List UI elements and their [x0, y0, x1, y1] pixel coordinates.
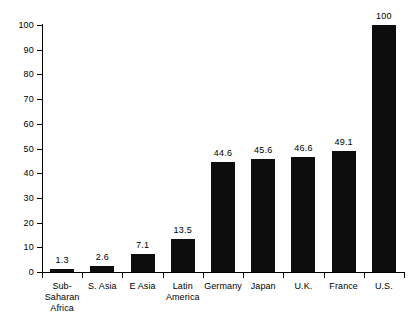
y-axis-tick-label: 10: [0, 243, 34, 252]
y-axis-tick-label: 40: [0, 169, 34, 178]
bar-value-label: 45.6: [243, 146, 283, 155]
y-axis-tick: [37, 223, 43, 224]
bar: [131, 254, 155, 272]
y-axis-tick-label: 20: [0, 219, 34, 228]
y-axis-tick: [37, 149, 43, 150]
y-axis-tick: [37, 124, 43, 125]
bar: [211, 162, 235, 272]
x-axis-line: [42, 272, 405, 273]
y-axis-tick: [37, 99, 43, 100]
y-axis-tick: [37, 74, 43, 75]
bar: [50, 269, 74, 272]
y-axis-tick-label: 90: [0, 46, 34, 55]
bar: [90, 266, 114, 272]
x-axis-tick: [203, 273, 204, 278]
bar-chart: 0102030405060708090100 1.32.67.113.544.6…: [0, 0, 416, 328]
y-axis-tick-label: 50: [0, 145, 34, 154]
y-axis-tick-label: 30: [0, 194, 34, 203]
bar: [171, 239, 195, 272]
y-axis-tick: [37, 25, 43, 26]
x-axis-category-label: U.S.: [360, 281, 408, 292]
x-axis-tick: [364, 273, 365, 278]
x-axis-tick: [404, 273, 405, 278]
bar-value-label: 1.3: [42, 256, 82, 265]
y-axis-tick: [37, 173, 43, 174]
x-axis-tick: [82, 273, 83, 278]
bar-value-label: 46.6: [283, 144, 323, 153]
x-axis-tick: [324, 273, 325, 278]
y-axis-tick-label: 80: [0, 70, 34, 79]
bar-value-label: 2.6: [82, 253, 122, 262]
y-axis-tick-label: 0: [0, 268, 34, 277]
bar: [251, 159, 275, 272]
y-axis-tick: [37, 198, 43, 199]
x-axis-tick: [243, 273, 244, 278]
x-axis-tick: [122, 273, 123, 278]
bar-value-label: 44.6: [203, 149, 243, 158]
bar: [372, 25, 396, 272]
y-axis-tick-label: 100: [0, 21, 34, 30]
bar-value-label: 13.5: [163, 226, 203, 235]
y-axis-tick: [37, 247, 43, 248]
bar-value-label: 100: [364, 12, 404, 21]
x-axis-tick: [283, 273, 284, 278]
y-axis-tick-label: 70: [0, 95, 34, 104]
x-axis-tick: [42, 273, 43, 278]
bar-value-label: 7.1: [123, 241, 163, 250]
y-axis-tick: [37, 50, 43, 51]
bar: [332, 151, 356, 272]
bar-value-label: 49.1: [324, 138, 364, 147]
x-axis-tick: [163, 273, 164, 278]
y-axis-tick-label: 60: [0, 120, 34, 129]
bar: [291, 157, 315, 272]
